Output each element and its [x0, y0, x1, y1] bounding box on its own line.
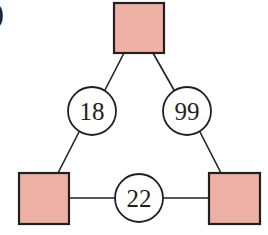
- edge-18-to-bottom-left: [58, 132, 79, 173]
- circles: 18 99 22: [68, 87, 211, 222]
- edge-top-to-18: [105, 53, 124, 90]
- edge-top-to-99: [153, 53, 174, 90]
- circle-right-edge: 99: [163, 87, 211, 135]
- circle-value: 99: [175, 98, 200, 125]
- edge-99-to-bottom-right: [200, 132, 221, 173]
- triangle-diagram: ) 18 99: [0, 0, 268, 235]
- diagram-canvas: 18 99 22: [0, 0, 268, 235]
- square-bottom-right: [209, 173, 260, 224]
- circle-left-edge: 18: [68, 87, 116, 135]
- circle-value: 22: [127, 185, 152, 212]
- square-bottom-left: [19, 173, 69, 224]
- circle-value: 18: [80, 98, 105, 125]
- circle-bottom-edge: 22: [115, 174, 163, 222]
- square-top: [114, 3, 164, 53]
- item-label-paren: ): [0, 0, 4, 28]
